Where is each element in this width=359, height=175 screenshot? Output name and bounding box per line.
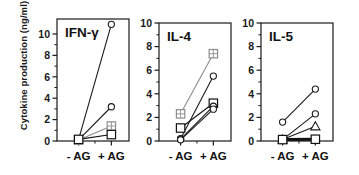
marker-open-square xyxy=(107,130,115,138)
series-lines xyxy=(79,24,112,140)
marker-open-square xyxy=(176,124,184,132)
panel-ifn-gamma: 0246810- AG+ AGIFN-γ xyxy=(24,0,134,175)
series-lines xyxy=(283,89,316,140)
panel-plot-2: 0246810- AG+ AGIL-5 xyxy=(228,0,338,175)
y-tick-label: 4 xyxy=(146,88,152,100)
panel-title: IL-5 xyxy=(269,29,293,44)
y-tick-label: 10 xyxy=(38,28,50,40)
marker-open-triangle xyxy=(311,122,320,130)
series-lines xyxy=(181,54,214,140)
x-tick-label-0: - AG xyxy=(67,150,91,162)
x-tick-label-0: - AG xyxy=(169,150,193,162)
marker-open-circle xyxy=(108,104,114,110)
series-line-subject-3 xyxy=(79,126,112,140)
y-tick-label: 2 xyxy=(44,113,50,125)
panel-il-4: 0246810- AG+ AGIL-4 xyxy=(126,0,236,175)
x-tick-label-1: + AG xyxy=(302,150,329,162)
x-tick-label-1: + AG xyxy=(98,150,125,162)
y-tick-label: 8 xyxy=(44,49,50,61)
marker-open-circle xyxy=(312,86,318,92)
marker-open-circle xyxy=(108,21,114,27)
y-tick-label: 0 xyxy=(44,135,50,147)
series-line-subject-3 xyxy=(283,126,316,139)
series-markers xyxy=(176,49,217,142)
series-markers xyxy=(278,86,320,144)
y-tick-label: 0 xyxy=(248,135,254,147)
y-tick-label: 8 xyxy=(248,40,254,52)
y-tick-label: 10 xyxy=(140,17,152,29)
y-tick-label: 4 xyxy=(248,88,254,100)
y-tick-label: 6 xyxy=(146,64,152,76)
marker-open-circle xyxy=(280,119,286,125)
panel-il-5: 0246810- AG+ AGIL-5 xyxy=(228,0,338,175)
marker-open-circle xyxy=(312,111,318,117)
series-line-subject-1 xyxy=(79,24,112,139)
marker-open-square xyxy=(278,135,286,143)
panel-plot-1: 0246810- AG+ AGIL-4 xyxy=(126,0,236,175)
figure-container: Cytokine production (ng/ml) 0246810- AG+… xyxy=(0,0,359,175)
x-tick-label-1: + AG xyxy=(200,150,227,162)
y-tick-label: 2 xyxy=(248,111,254,123)
x-tick-label-0: - AG xyxy=(271,150,295,162)
marker-open-circle xyxy=(178,137,184,143)
y-tick-label: 4 xyxy=(44,92,50,104)
marker-open-circle xyxy=(210,106,216,112)
series-line-subject-1 xyxy=(181,54,214,114)
y-tick-label: 8 xyxy=(146,40,152,52)
marker-open-circle xyxy=(210,73,216,79)
panel-title: IFN-γ xyxy=(65,25,99,40)
y-tick-label: 2 xyxy=(146,111,152,123)
series-line-subject-4 xyxy=(181,106,214,139)
y-tick-label: 6 xyxy=(44,71,50,83)
y-tick-label: 10 xyxy=(242,17,254,29)
panel-plot-0: 0246810- AG+ AGIFN-γ xyxy=(24,0,134,175)
y-tick-label: 0 xyxy=(146,135,152,147)
marker-open-square xyxy=(311,135,319,143)
marker-open-square xyxy=(74,135,82,143)
panel-title: IL-4 xyxy=(167,29,191,44)
y-tick-label: 6 xyxy=(248,64,254,76)
